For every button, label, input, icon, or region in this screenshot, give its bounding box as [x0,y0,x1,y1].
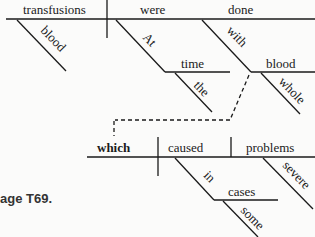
word-subject: transfusions [23,2,86,17]
word-prep-with: with [224,23,251,50]
word-object-modifier: severe [280,158,314,192]
word-modifier-the: the [191,78,213,100]
sentence-diagram: transfusions were done blood At time the… [0,0,315,237]
word-prep-in: in [201,168,219,186]
word-verb-aux: were [140,2,165,17]
word-modifier-whole: whole [276,74,309,107]
word-relative-verb: caused [168,140,204,155]
word-modifier-some: some [238,203,268,233]
word-prep-at: At [140,30,160,50]
word-subject-modifier: blood [38,23,70,55]
relative-connector [230,75,249,120]
word-object-blood: blood [266,56,296,71]
word-object-cases: cases [228,184,255,199]
word-verb: done [228,2,254,17]
word-relative-object: problems [246,140,294,155]
word-relative-subject: which [97,140,131,155]
caption: age T69. [0,191,52,206]
word-object-time: time [181,56,204,71]
prep-line-at [116,20,165,72]
